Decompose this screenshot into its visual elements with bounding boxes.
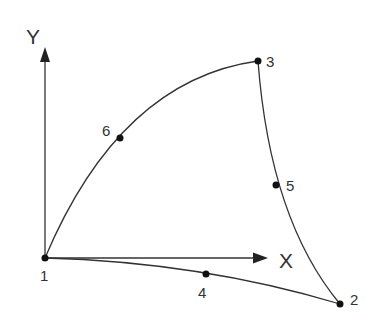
node-label-4: 4 (198, 284, 206, 301)
element-diagram: Y X 1 2 3 4 5 6 (0, 0, 381, 321)
node-label-3: 3 (266, 53, 274, 70)
edge-3-6-1 (45, 61, 258, 258)
node-label-1: 1 (40, 267, 48, 284)
x-axis-arrow-icon (253, 253, 268, 264)
node-3 (255, 58, 262, 65)
node-4 (203, 271, 210, 278)
node-2 (337, 301, 344, 308)
node-label-5: 5 (286, 177, 294, 194)
node-5 (273, 182, 280, 189)
node-label-2: 2 (350, 291, 358, 308)
node-1 (42, 255, 49, 262)
y-axis-label: Y (26, 25, 40, 48)
edge-1-4-2 (45, 258, 340, 304)
node-6 (117, 135, 124, 142)
edge-2-5-3 (258, 61, 340, 304)
node-label-6: 6 (102, 122, 110, 139)
y-axis-arrow-icon (40, 47, 50, 62)
x-axis-label: X (279, 249, 293, 272)
